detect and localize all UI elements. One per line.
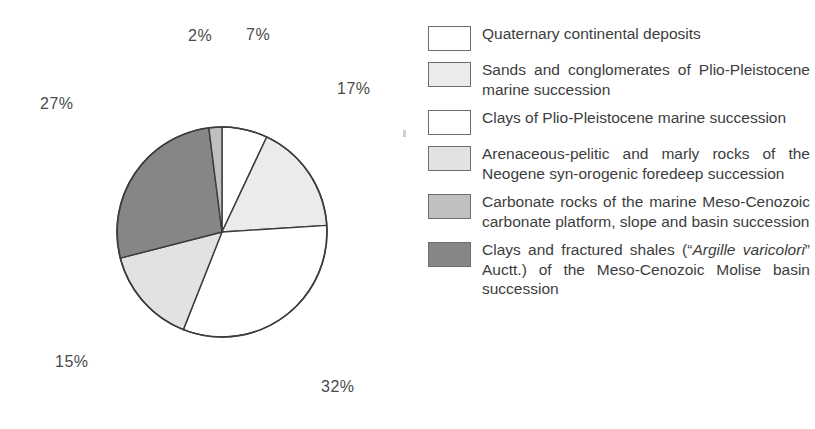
legend-label: Quaternary continental deposits <box>482 24 810 44</box>
legend-item[interactable]: Quaternary continental deposits <box>428 24 810 51</box>
pie-chart-figure: 2%7%17%27%15%32% Quaternary continental … <box>0 0 815 429</box>
pie-percentage-label: 17% <box>337 80 371 98</box>
pie-percentage-label: 2% <box>188 27 212 45</box>
legend-label: Sands and conglomerates of Plio-Pleistoc… <box>482 60 810 99</box>
legend-item[interactable]: Clays and fractured shales (“Argille var… <box>428 240 810 299</box>
legend-swatch <box>428 146 471 171</box>
pie-percentage-label: 32% <box>321 378 355 396</box>
legend-label: Arenaceous-pelitic and marly rocks of th… <box>482 144 810 183</box>
legend-label: Clays of Plio-Pleistocene marine success… <box>482 108 810 128</box>
legend-item[interactable]: Clays of Plio-Pleistocene marine success… <box>428 108 810 135</box>
legend-swatch <box>428 110 471 135</box>
pie-percentage-label: 15% <box>55 353 89 371</box>
scan-artifact-speck <box>403 130 406 137</box>
legend-item[interactable]: Carbonate rocks of the marine Meso-Cenoz… <box>428 192 810 231</box>
pie-percentage-label: 7% <box>246 26 270 44</box>
chart-legend: Quaternary continental depositsSands and… <box>428 24 810 308</box>
legend-swatch <box>428 26 471 51</box>
legend-swatch <box>428 194 471 219</box>
legend-label: Carbonate rocks of the marine Meso-Cenoz… <box>482 192 810 231</box>
legend-item[interactable]: Sands and conglomerates of Plio-Pleistoc… <box>428 60 810 99</box>
pie-percentage-label: 27% <box>40 95 74 113</box>
legend-item[interactable]: Arenaceous-pelitic and marly rocks of th… <box>428 144 810 183</box>
legend-swatch <box>428 62 471 87</box>
legend-label: Clays and fractured shales (“Argille var… <box>482 240 810 299</box>
pie-chart-area: 2%7%17%27%15%32% <box>0 0 410 429</box>
legend-swatch <box>428 242 471 267</box>
